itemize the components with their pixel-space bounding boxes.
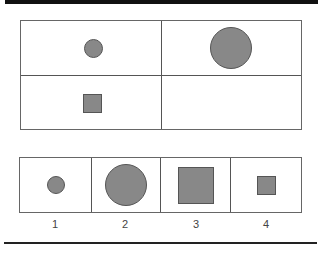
option-label-3: 3 bbox=[186, 218, 206, 230]
option-1[interactable] bbox=[20, 158, 91, 212]
answer-options bbox=[19, 157, 302, 213]
matrix-cell-1-1 bbox=[21, 21, 161, 75]
bottom-rule bbox=[4, 242, 317, 244]
top-rule bbox=[5, 0, 318, 4]
small-circle-icon bbox=[84, 39, 103, 58]
option-4[interactable] bbox=[231, 158, 301, 212]
option-2[interactable] bbox=[92, 158, 160, 212]
option-label-1: 1 bbox=[45, 218, 65, 230]
small-square-icon bbox=[83, 94, 102, 113]
small-circle-icon bbox=[47, 176, 65, 194]
matrix-cell-2-2-blank bbox=[162, 76, 302, 130]
option-3[interactable] bbox=[161, 158, 230, 212]
option-label-4: 4 bbox=[256, 218, 276, 230]
matrix-cell-2-1 bbox=[21, 76, 161, 130]
analogy-matrix bbox=[20, 20, 302, 130]
large-square-icon bbox=[178, 167, 214, 204]
large-circle-icon bbox=[210, 27, 252, 69]
large-circle-icon bbox=[105, 164, 147, 206]
matrix-cell-1-2 bbox=[162, 21, 302, 75]
option-label-2: 2 bbox=[115, 218, 135, 230]
small-square-icon bbox=[257, 176, 276, 195]
